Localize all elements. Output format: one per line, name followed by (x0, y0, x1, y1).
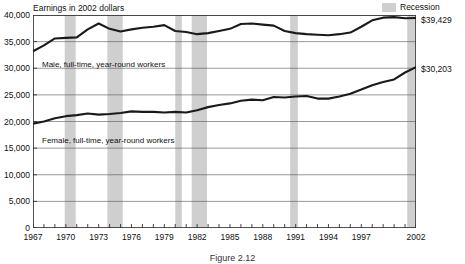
y-tick-label: 5,000 (0, 196, 30, 206)
male-end-value-label: $39,429 (421, 15, 452, 25)
legend-recession-label: Recession (400, 2, 440, 12)
x-tick-label: 1976 (117, 232, 145, 242)
plot-area (33, 15, 416, 228)
female-earnings-line (33, 67, 416, 123)
x-tick-label: 2002 (402, 232, 430, 242)
chart-figure: Earnings in 2002 dollars Recession 05,00… (0, 0, 465, 264)
series-label-male: Male, full-time, year-round workers (42, 60, 165, 69)
y-tick-label: 10,000 (0, 170, 30, 180)
female-end-value-label: $30,203 (421, 64, 452, 74)
figure-caption: Figure 2.12 (0, 253, 465, 264)
y-tick-label: 15,000 (0, 143, 30, 153)
legend-recession-swatch (382, 3, 396, 12)
male-earnings-line (33, 17, 416, 51)
x-tick-label: 1988 (249, 232, 277, 242)
y-tick-label: 40,000 (0, 10, 30, 20)
x-tick-label: 1985 (216, 232, 244, 242)
x-tick-label: 1997 (347, 232, 375, 242)
x-tick-label: 1973 (85, 232, 113, 242)
x-tick-label: 1967 (19, 232, 47, 242)
x-tick-label: 1970 (52, 232, 80, 242)
series-label-female: Female, full-time, year-round workers (42, 136, 174, 145)
x-tick-label: 1982 (183, 232, 211, 242)
y-tick-label: 35,000 (0, 37, 30, 47)
chart-svg (33, 15, 416, 228)
x-tick-label: 1994 (314, 232, 342, 242)
x-tick-label: 1979 (150, 232, 178, 242)
y-tick-label: 20,000 (0, 117, 30, 127)
x-tick-label: 1991 (282, 232, 310, 242)
y-tick-label: 25,000 (0, 90, 30, 100)
chart-axis-title: Earnings in 2002 dollars (33, 3, 124, 13)
y-tick-label: 30,000 (0, 63, 30, 73)
